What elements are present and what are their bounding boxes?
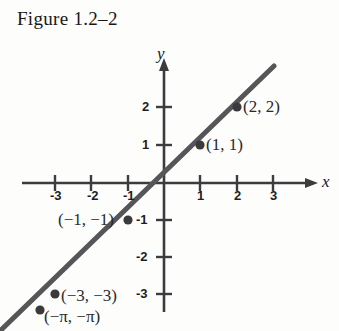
plot-area <box>0 0 339 331</box>
y-tick-label: 2 <box>142 99 149 114</box>
data-point-neg1-neg1 <box>123 215 132 224</box>
x-tick-label: -3 <box>50 188 62 203</box>
x-axis-label: x <box>322 172 330 192</box>
x-tick-label: 3 <box>270 188 277 203</box>
point-label-negpi-negpi: (−π, −π) <box>44 307 100 327</box>
y-tick-label: -2 <box>136 249 148 264</box>
x-tick-label: 2 <box>234 188 241 203</box>
y-axis-label: y <box>157 44 165 64</box>
data-point-neg3-neg3 <box>50 289 59 298</box>
x-tick-label: -1 <box>123 188 135 203</box>
figure-container: Figure 1.2–2 <box>0 0 339 331</box>
y-tick-label: -1 <box>136 212 148 227</box>
point-label-2-2: (2, 2) <box>243 97 280 117</box>
point-label-neg1-neg1: (−1, −1) <box>58 210 114 230</box>
x-axis-arrowhead <box>305 178 318 188</box>
y-tick-label: -3 <box>136 286 148 301</box>
y-tick-label: 1 <box>142 137 149 152</box>
x-tick-label: 1 <box>197 188 204 203</box>
point-label-neg3-neg3: (−3, −3) <box>61 286 117 306</box>
x-tick-label: -2 <box>87 188 99 203</box>
data-point-1-1 <box>195 140 204 149</box>
data-point-2-2 <box>232 102 241 111</box>
point-label-1-1: (1, 1) <box>206 135 243 155</box>
